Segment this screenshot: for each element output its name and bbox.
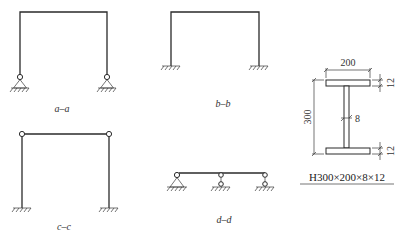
fixed-support-icon — [249, 66, 268, 70]
frame-a-members — [20, 12, 107, 77]
dimension-height: 300 — [302, 78, 324, 156]
dimension-top-flange-value: 12 — [385, 78, 396, 88]
section-designation: H300×200×8×12 — [309, 171, 385, 183]
dimension-height-value: 300 — [302, 110, 313, 125]
dimension-width-value: 200 — [341, 57, 356, 68]
frame-label-d-d: d–d — [217, 214, 233, 225]
frame-d-d: d–d — [167, 172, 274, 225]
fixed-support-icon — [99, 208, 118, 212]
hinge-icon — [106, 131, 111, 136]
frame-label-a-a: a–a — [55, 103, 70, 114]
dimension-bottom-flange-value: 12 — [385, 146, 396, 156]
dimension-width: 200 — [324, 57, 372, 78]
dimension-web-value: 8 — [355, 113, 360, 124]
bottom-flange — [326, 148, 370, 154]
frame-a-a: a–a — [10, 12, 116, 114]
frame-b-b: b–b — [161, 12, 268, 109]
dimension-bottom-flange: 12 — [372, 142, 396, 160]
frame-b-members — [171, 12, 259, 66]
h-section-detail: 200 300 8 12 — [300, 57, 396, 184]
link-support-icon — [255, 173, 274, 191]
dimension-top-flange: 12 — [372, 74, 396, 92]
pin-support-icon — [167, 172, 187, 191]
top-flange — [326, 80, 370, 86]
pin-support-icon — [10, 74, 29, 92]
frame-label-b-b: b–b — [216, 98, 231, 109]
structural-diagram: a–a b–b — [0, 0, 399, 238]
web — [344, 86, 349, 148]
frame-c-c: c–c — [12, 131, 118, 232]
fixed-support-icon — [12, 208, 31, 212]
pin-support-icon — [97, 74, 116, 92]
frame-label-c-c: c–c — [57, 221, 71, 232]
link-support-icon — [211, 173, 230, 191]
fixed-support-icon — [161, 66, 180, 70]
hinge-icon — [19, 131, 24, 136]
